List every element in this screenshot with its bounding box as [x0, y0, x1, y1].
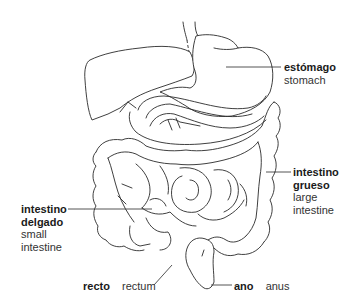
label-large-intestine-en-1: large	[293, 191, 339, 204]
label-stomach: estómago stomach	[284, 61, 336, 86]
rectum	[186, 238, 214, 289]
small-intestine	[118, 164, 247, 250]
label-rectum-es: recto	[83, 280, 110, 292]
label-small-intestine-es-1: intestino	[21, 203, 67, 216]
label-anus-es: ano	[234, 280, 254, 292]
label-large-intestine-es-1: intestino	[293, 166, 339, 179]
label-large-intestine: intestino grueso large intestine	[293, 166, 339, 216]
label-anus-en: anus	[266, 280, 290, 292]
label-small-intestine-es-2: delgado	[21, 216, 67, 229]
label-rectum-en: rectum	[122, 280, 156, 292]
label-small-intestine-en-1: small	[21, 228, 67, 241]
label-rectum: recto rectum	[83, 280, 156, 293]
label-anus: ano anus	[234, 280, 289, 293]
liver	[85, 46, 194, 120]
label-stomach-en: stomach	[284, 74, 336, 87]
label-small-intestine-en-2: intestine	[21, 241, 67, 254]
label-large-intestine-en-2: intestine	[293, 204, 339, 217]
label-stomach-es: estómago	[284, 61, 336, 74]
large-intestine	[93, 102, 280, 256]
label-large-intestine-es-2: grueso	[293, 179, 339, 192]
label-small-intestine: intestino delgado small intestine	[21, 203, 67, 253]
rectum-leader	[154, 265, 172, 285]
digestive-system-illustration	[0, 0, 354, 304]
